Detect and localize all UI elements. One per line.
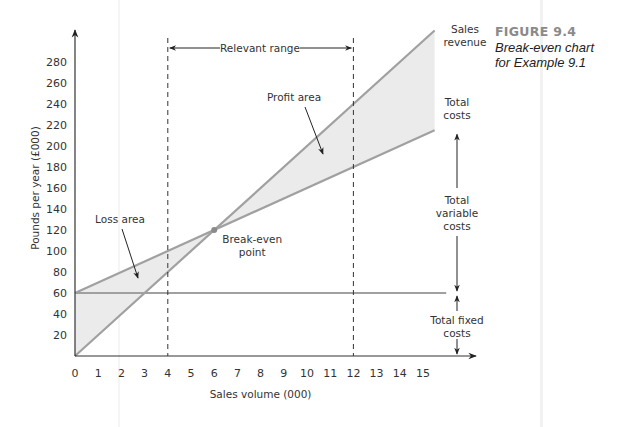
x-tick-label: 14 [393, 367, 407, 380]
sales-revenue-label: revenue [444, 36, 487, 48]
x-tick-label: 7 [234, 367, 241, 380]
y-tick-label: 80 [53, 266, 67, 279]
x-tick-label: 15 [416, 367, 430, 380]
x-tick-label: 8 [257, 367, 264, 380]
y-tick-label: 180 [46, 161, 67, 174]
relevant-range-label: Relevant range [220, 42, 300, 54]
loss-area-label: Loss area [95, 213, 145, 225]
break-even-label: point [239, 246, 266, 258]
x-tick-label: 10 [300, 367, 314, 380]
total-variable-costs-label: Total [444, 194, 470, 206]
x-axis-label: Sales volume (000) [210, 388, 312, 400]
sales-revenue-label: Sales [451, 23, 479, 35]
x-tick-label: 2 [118, 367, 125, 380]
figure-caption-line: for Example 9.1 [495, 55, 630, 70]
y-tick-label: 160 [46, 182, 67, 195]
profit-area-label: Profit area [267, 91, 321, 103]
total-fixed-costs-label: costs [443, 327, 470, 339]
x-tick-label: 5 [188, 367, 195, 380]
total-costs-line [75, 130, 435, 293]
total-costs-label: Total [444, 96, 470, 108]
figure-number: FIGURE 9.4 [495, 24, 576, 39]
x-tick-label: 4 [164, 367, 171, 380]
x-tick-label: 11 [323, 367, 337, 380]
break-even-label: Break-even [222, 233, 282, 245]
total-fixed-costs-label: Total fixed [429, 314, 484, 326]
sales-revenue-line [75, 31, 435, 357]
x-tick-label: 9 [280, 367, 287, 380]
y-tick-label: 260 [46, 77, 67, 90]
total-costs-label: costs [443, 109, 470, 121]
y-tick-label: 120 [46, 224, 67, 237]
figure-caption-line: Break-even chart [495, 40, 630, 55]
total-variable-costs-label: variable [436, 207, 478, 219]
y-tick-label: 60 [53, 287, 67, 300]
y-tick-label: 200 [46, 140, 67, 153]
y-tick-label: 40 [53, 308, 67, 321]
x-tick-label: 6 [211, 367, 218, 380]
x-tick-label: 0 [72, 367, 79, 380]
y-tick-label: 20 [53, 329, 67, 342]
y-tick-label: 140 [46, 203, 67, 216]
figure-caption: Break-even chart for Example 9.1 [495, 40, 630, 70]
break-even-point-marker [211, 227, 217, 233]
y-tick-label: 240 [46, 98, 67, 111]
y-axis-label: Pounds per year (£000) [29, 126, 41, 250]
y-tick-label: 280 [46, 56, 67, 69]
y-tick-label: 100 [46, 245, 67, 258]
total-variable-costs-label: costs [443, 220, 470, 232]
x-tick-label: 3 [141, 367, 148, 380]
y-tick-label: 220 [46, 119, 67, 132]
x-tick-label: 1 [95, 367, 102, 380]
x-tick-label: 13 [370, 367, 384, 380]
x-tick-label: 12 [346, 367, 360, 380]
